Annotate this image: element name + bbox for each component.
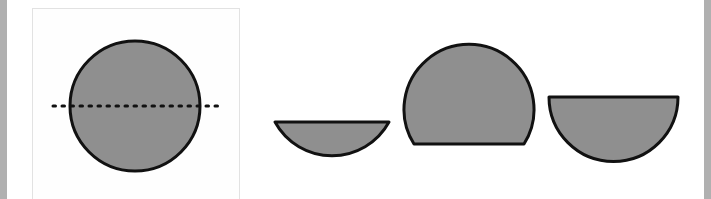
minor-segment xyxy=(275,122,389,156)
diagram-canvas xyxy=(0,0,711,199)
major-segment xyxy=(404,44,534,144)
semicircle xyxy=(549,97,678,162)
